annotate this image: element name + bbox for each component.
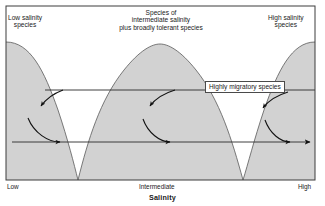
salinity-species-figure: Low salinity species Species of intermed… (0, 0, 325, 206)
diagram-canvas (0, 0, 325, 206)
